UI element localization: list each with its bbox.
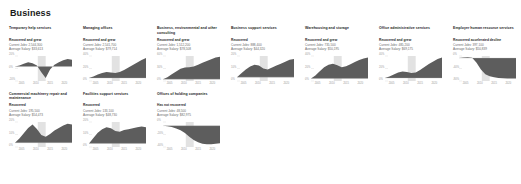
y-axis-tick-label: 0% — [157, 119, 161, 122]
x-axis-tick-label: 2015 — [491, 82, 497, 85]
x-axis-tick-label: 2020 — [61, 82, 67, 85]
industry-panel[interactable]: Warehousing and storageRecovered and gre… — [305, 26, 369, 85]
chart-container: 40%20%0%2005201020152020 — [379, 54, 443, 85]
x-axis-tick-label: 2015 — [121, 82, 127, 85]
area-chart — [83, 120, 147, 151]
chart-container: 20%10%0%2005201020152020 — [83, 120, 147, 151]
recovery-status: Recovered accelerated decline — [453, 38, 517, 42]
average-salary-stat: Average Salary: $79,714 — [83, 47, 147, 51]
dashboard-page: Business Temporary help servicesRecovere… — [0, 0, 521, 184]
area-chart — [9, 120, 73, 151]
average-salary-stat: Average Salary: $69,175 — [379, 47, 443, 51]
industry-panel[interactable]: Business, environmental and other consul… — [157, 26, 221, 85]
x-axis-tick-label: 2010 — [403, 82, 409, 85]
recovery-status: Recovered and grew — [9, 38, 73, 42]
area-chart — [83, 54, 147, 85]
average-salary-stat: Average Salary: $48,730 — [83, 113, 147, 117]
y-axis-tick-label: 20% — [305, 66, 310, 69]
x-axis-tick-label: 2015 — [47, 148, 53, 151]
x-axis-tick-label: 2010 — [181, 82, 187, 85]
area-chart — [231, 54, 295, 85]
x-axis-tick-label: 2010 — [181, 148, 187, 151]
average-salary-stat: Average Salary: $50,195 — [305, 47, 369, 51]
recovery-status: Recovered and grew — [157, 38, 221, 42]
area-chart — [157, 120, 221, 151]
x-axis-tick-label: 2015 — [47, 82, 53, 85]
average-salary-stat: Average Salary: $44,320 — [231, 47, 295, 51]
x-axis-tick-label: 2020 — [135, 82, 141, 85]
y-axis-tick-label: 0% — [9, 66, 13, 69]
y-axis-tick-label: 40% — [305, 53, 310, 56]
x-axis-tick-label: 2020 — [209, 148, 215, 151]
y-axis-tick-label: 10% — [9, 132, 14, 135]
chart-container: 20%10%0%2005201020152020 — [9, 120, 73, 151]
panel-title: Employer human resource services — [453, 26, 517, 35]
x-axis-tick-label: 2005 — [167, 82, 173, 85]
chart-container: 40%20%0%2005201020152020 — [83, 54, 147, 85]
x-axis-tick-label: 2015 — [417, 82, 423, 85]
y-axis-tick-label: 0% — [9, 144, 13, 147]
area-chart — [9, 54, 73, 85]
area-series — [459, 57, 516, 78]
area-chart — [453, 54, 517, 85]
x-axis-tick-label: 2005 — [389, 82, 395, 85]
x-axis-tick-label: 2020 — [431, 82, 437, 85]
y-axis-tick-label: -20% — [157, 132, 163, 135]
x-axis-tick-label: 2020 — [209, 82, 215, 85]
x-axis-tick-label: 2005 — [93, 82, 99, 85]
x-axis-tick-label: 2005 — [19, 82, 25, 85]
panel-title: Business support services — [231, 26, 295, 35]
x-axis-tick-label: 2010 — [329, 82, 335, 85]
x-axis-tick-label: 2015 — [121, 148, 127, 151]
y-axis-tick-label: -80% — [453, 78, 459, 81]
x-axis-tick-label: 2010 — [107, 82, 113, 85]
y-axis-tick-label: 20% — [231, 53, 236, 56]
y-axis-tick-label: 0% — [157, 78, 161, 81]
x-axis-tick-label: 2005 — [463, 82, 469, 85]
y-axis-tick-label: 0% — [305, 78, 309, 81]
x-axis-tick-label: 2020 — [283, 82, 289, 85]
panel-title: Commercial machinery repair and maintena… — [9, 92, 73, 101]
x-axis-tick-label: 2010 — [107, 148, 113, 151]
x-axis-tick-label: 2020 — [357, 82, 363, 85]
panel-title: Managing offices — [83, 26, 147, 35]
recovery-status: Recovered and grew — [305, 38, 369, 42]
y-axis-tick-label: 20% — [9, 53, 14, 56]
y-axis-tick-label: 40% — [379, 53, 384, 56]
chart-container: 0%-20%-40%2005201020152020 — [157, 120, 221, 151]
x-axis-tick-label: 2005 — [241, 82, 247, 85]
recovery-status: Recovered — [9, 103, 73, 107]
industry-panel[interactable]: Business support servicesRecoveredCurren… — [231, 26, 295, 85]
y-axis-tick-label: 0% — [83, 144, 87, 147]
industry-panel[interactable]: Offices of holding companiesHas not reco… — [157, 92, 221, 151]
panel-row-1: Temporary help servicesRecovered and gre… — [9, 26, 521, 85]
y-axis-tick-label: 0% — [379, 78, 383, 81]
y-axis-tick-label: -40% — [157, 144, 163, 147]
chart-container: 20%0%-20%2005201020152020 — [9, 54, 73, 85]
y-axis-tick-label: -40% — [453, 66, 459, 69]
panel-title: Office administrative services — [379, 26, 443, 35]
y-axis-tick-label: 0% — [231, 78, 235, 81]
x-axis-tick-label: 2020 — [61, 148, 67, 151]
average-salary-stat: Average Salary: $54,473 — [9, 113, 73, 117]
panel-title: Offices of holding companies — [157, 92, 221, 101]
x-axis-tick-label: 2005 — [19, 148, 25, 151]
chart-container: 20%10%0%2005201020152020 — [231, 54, 295, 85]
industry-panel[interactable]: Temporary help servicesRecovered and gre… — [9, 26, 73, 85]
industry-panel[interactable]: Managing officesRecovered and grewCurren… — [83, 26, 147, 85]
y-axis-tick-label: 20% — [9, 119, 14, 122]
industry-panel[interactable]: Office administrative servicesRecovered … — [379, 26, 443, 85]
y-axis-tick-label: 0% — [453, 53, 457, 56]
area-chart — [157, 54, 221, 85]
chart-container: 40%20%0%2005201020152020 — [305, 54, 369, 85]
industry-panel[interactable]: Employer human resource servicesRecovere… — [453, 26, 517, 85]
panel-title: Warehousing and storage — [305, 26, 369, 35]
y-axis-tick-label: 30% — [157, 66, 162, 69]
page-title: Business — [10, 8, 521, 19]
recovery-status: Recovered — [83, 103, 147, 107]
x-axis-tick-label: 2010 — [33, 148, 39, 151]
industry-panel[interactable]: Commercial machinery repair and maintena… — [9, 92, 73, 151]
industry-panel[interactable]: Facilities support servicesRecoveredCurr… — [83, 92, 147, 151]
y-axis-tick-label: -20% — [9, 78, 15, 81]
average-salary-stat: Average Salary: $50,839 — [453, 47, 517, 51]
